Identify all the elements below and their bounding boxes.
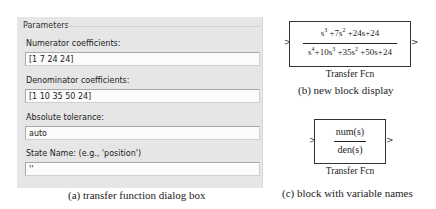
state-name-field[interactable]: '' bbox=[25, 162, 260, 176]
absolute-tolerance-field[interactable]: auto bbox=[25, 126, 260, 140]
transfer-fcn-block-expanded[interactable]: s3 +7s2 +24s+24 s4+10s3 +35s2 +50s+24 bbox=[289, 21, 411, 67]
block-denominator: s4+10s3 +35s2 +50s+24 bbox=[290, 47, 410, 57]
output-port-icon: > bbox=[386, 136, 394, 145]
denominator-field[interactable]: [1 10 35 50 24] bbox=[25, 89, 260, 103]
group-divider bbox=[65, 26, 260, 27]
fraction-bar bbox=[334, 141, 366, 142]
caption-b: (b) new block display bbox=[298, 84, 394, 96]
caption-c: (c) block with variable names bbox=[282, 187, 413, 199]
caption-a: (a) transfer function dialog box bbox=[68, 189, 205, 201]
state-name-label: State Name: (e.g., 'position') bbox=[26, 149, 141, 158]
denominator-label: Denominator coefficients: bbox=[26, 76, 129, 85]
block-numerator: num(s) bbox=[315, 126, 385, 137]
block-denominator: den(s) bbox=[315, 144, 385, 155]
absolute-tolerance-label: Absolute tolerance: bbox=[26, 113, 104, 122]
block-c-name: Transfer Fcn bbox=[300, 166, 400, 176]
numerator-field[interactable]: [1 7 24 24] bbox=[25, 52, 260, 66]
output-port-icon: > bbox=[411, 38, 419, 47]
numerator-label: Numerator coefficients: bbox=[26, 39, 120, 48]
transfer-fcn-block-variable[interactable]: num(s) den(s) bbox=[314, 119, 386, 164]
parameters-group-title: Parameters bbox=[23, 21, 69, 30]
block-numerator: s3 +7s2 +24s+24 bbox=[290, 28, 410, 38]
block-b-name: Transfer Fcn bbox=[290, 69, 410, 79]
fraction-bar bbox=[303, 43, 397, 44]
transfer-function-dialog: Parameters Numerator coefficients: [1 7 … bbox=[17, 17, 263, 188]
